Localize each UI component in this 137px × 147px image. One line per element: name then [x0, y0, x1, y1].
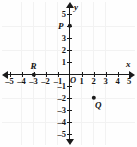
x-tick-label-4: 4: [115, 77, 119, 86]
y-tick: [67, 134, 72, 135]
x-tick-label-3: 3: [103, 77, 107, 86]
origin-label: O: [70, 76, 76, 85]
y-tick: [67, 98, 72, 99]
x-tick-label-1: 1: [79, 77, 83, 86]
x-tick-label--5: –5: [5, 77, 14, 86]
x-tick-label--4: –4: [17, 77, 26, 86]
y-tick-label-5: 5: [57, 10, 66, 19]
y-axis-up-arrow-icon: [66, 2, 74, 8]
y-tick-label-3: 3: [57, 34, 66, 43]
point-label-R: R: [31, 62, 37, 71]
point-label-Q: Q: [95, 101, 102, 110]
y-tick-label--3: –3: [53, 106, 66, 115]
x-tick-label-5: 5: [127, 77, 131, 86]
y-axis-label: y: [74, 3, 78, 12]
y-axis-down-arrow-icon: [66, 139, 74, 145]
y-tick-label--1: –1: [53, 82, 66, 91]
y-tick: [67, 50, 72, 51]
y-tick-label-2: 2: [57, 46, 66, 55]
y-tick-label-1: 1: [57, 58, 66, 67]
y-tick: [67, 38, 72, 39]
coordinate-plane: –5 –4 –3 –2 –1 1 2 3 4 5 5 3 2 1 –1 –2 –…: [0, 0, 137, 147]
x-axis-label: x: [126, 60, 131, 69]
y-tick: [67, 110, 72, 111]
y-tick: [67, 122, 72, 123]
x-tick-label-2: 2: [91, 77, 95, 86]
x-tick-label--2: –2: [41, 77, 50, 86]
y-tick: [67, 62, 72, 63]
plotted-point-P: [67, 24, 71, 28]
y-tick-label--5: –5: [53, 130, 66, 139]
point-label-P: P: [58, 22, 64, 31]
y-tick-label--2: –2: [53, 94, 66, 103]
y-tick: [67, 86, 72, 87]
y-tick: [67, 14, 72, 15]
y-tick-label--4: –4: [53, 118, 66, 127]
x-tick-label--3: –3: [29, 77, 38, 86]
